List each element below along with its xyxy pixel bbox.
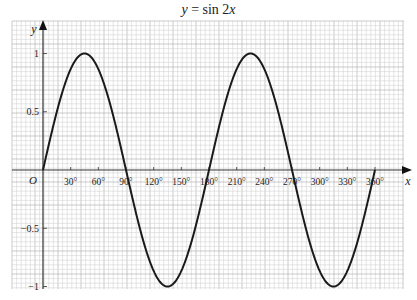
svg-text:x: x [404,174,411,188]
svg-text:150°: 150° [172,177,190,187]
svg-text:120°: 120° [145,177,163,187]
svg-text:30°: 30° [64,177,78,187]
graph-paper-grid [12,21,404,289]
svg-text:240°: 240° [255,177,273,187]
svg-text:O: O [29,174,37,186]
svg-text:210°: 210° [228,177,246,187]
svg-text:330°: 330° [338,177,356,187]
svg-text:60°: 60° [92,177,106,187]
svg-text:0.5: 0.5 [27,106,40,117]
svg-text:y: y [30,22,37,36]
svg-text:360°: 360° [366,177,384,187]
svg-text:1: 1 [34,48,39,59]
svg-text:90°: 90° [119,177,133,187]
svg-text:−1: −1 [28,281,39,292]
svg-text:300°: 300° [311,177,329,187]
svg-text:270°: 270° [283,177,301,187]
sine-chart: 30°60°90°120°150°180°210°240°270°300°330… [0,0,417,300]
svg-text:180°: 180° [200,177,218,187]
svg-text:−0.5: −0.5 [21,223,39,234]
